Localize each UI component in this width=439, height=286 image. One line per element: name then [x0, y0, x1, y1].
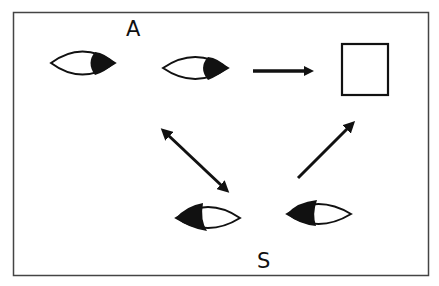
target-object: [342, 44, 388, 95]
label-s: S: [257, 249, 270, 273]
joint-attention-diagram: A S: [0, 0, 439, 286]
label-a: A: [126, 17, 141, 41]
